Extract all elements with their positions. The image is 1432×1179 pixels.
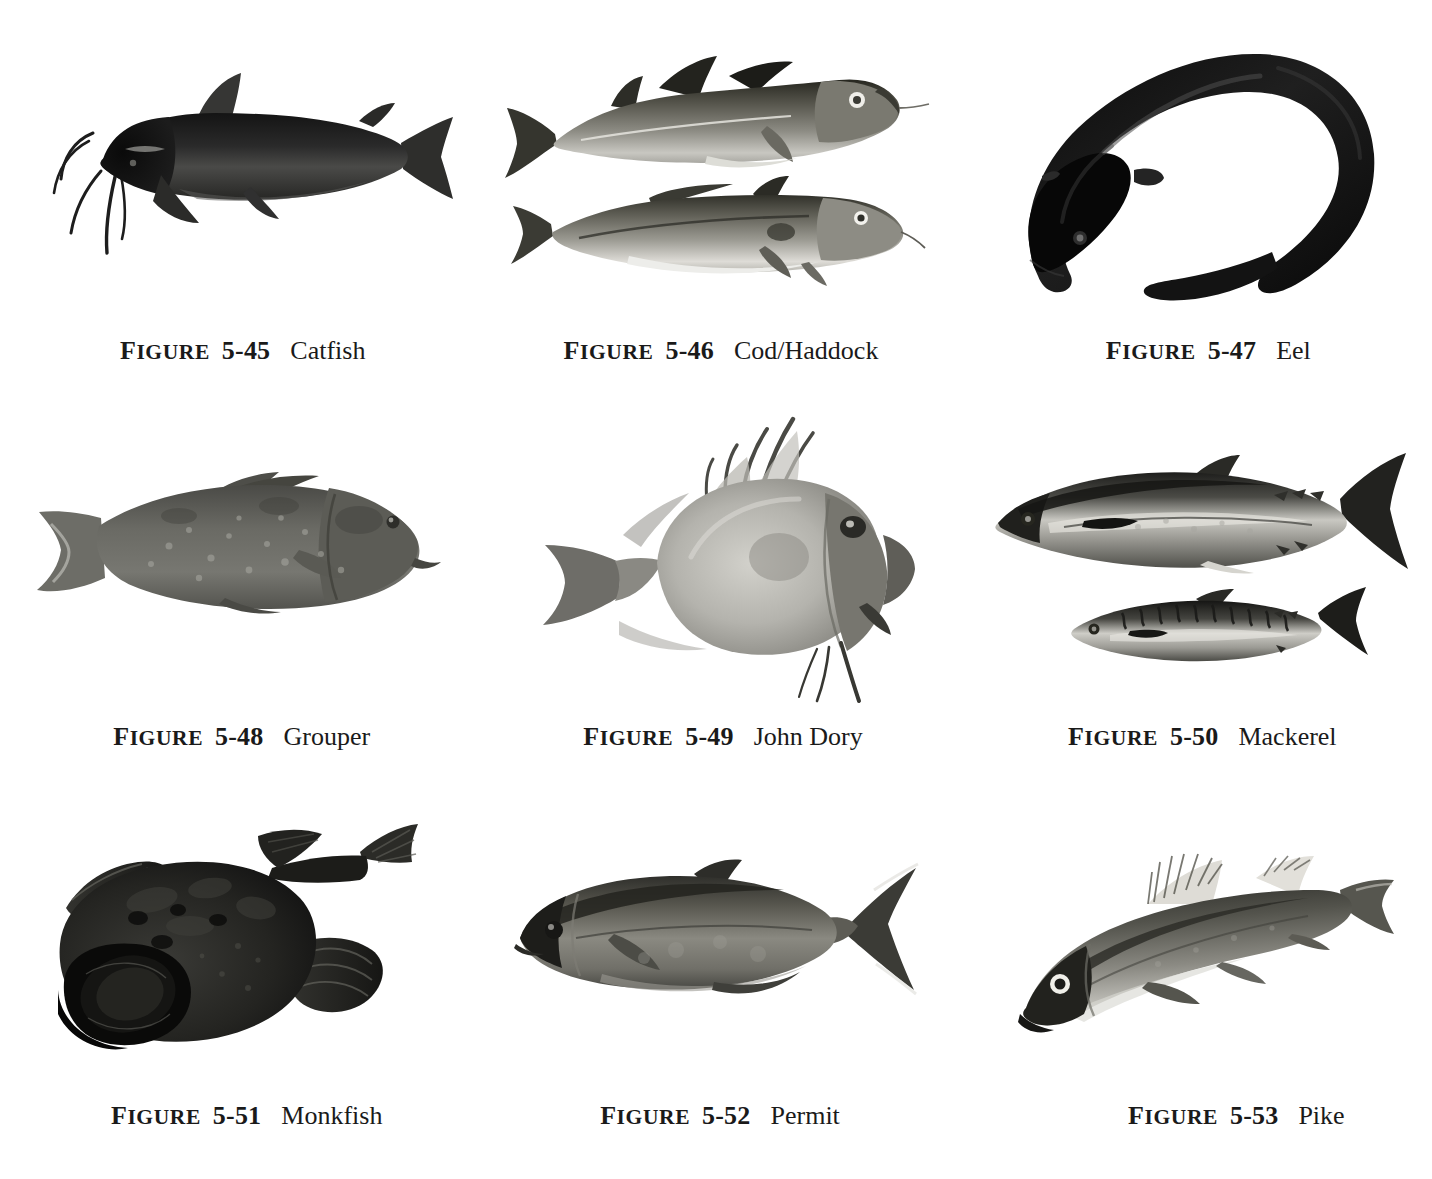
figure-image-catfish [0, 0, 482, 338]
figure-caption-eel: FIGURE 5-47Eel [940, 338, 1432, 364]
figure-image-john-dory [472, 390, 959, 724]
figure-title: Monkfish [261, 1101, 382, 1130]
figure-label: FIGURE [120, 340, 222, 364]
figure-title: Cod/Haddock [714, 336, 878, 365]
figure-number: 5-51 [213, 1101, 261, 1130]
figure-cell-monkfish: FIGURE 5-51Monkfish [0, 775, 477, 1179]
figure-image-monkfish [0, 775, 480, 1103]
figure-title: Catfish [270, 336, 365, 365]
figure-number: 5-49 [685, 722, 733, 751]
figure-label: FIGURE [600, 1105, 702, 1129]
figure-caption-grouper: FIGURE 5-48Grouper [0, 724, 480, 750]
figure-caption-monkfish: FIGURE 5-51Monkfish [0, 1103, 485, 1129]
figure-cell-grouper: FIGURE 5-48Grouper [0, 390, 477, 775]
figure-number: 5-47 [1208, 336, 1256, 365]
figure-cell-john-dory: FIGURE 5-49John Dory [477, 390, 954, 775]
figure-label: FIGURE [1106, 340, 1208, 364]
figure-label: FIGURE [111, 1105, 213, 1129]
figure-image-permit [477, 775, 954, 1103]
figure-cell-eel: FIGURE 5-47Eel [955, 0, 1432, 390]
figure-caption-mackerel: FIGURE 5-50Mackerel [946, 724, 1432, 750]
figure-label: FIGURE [1128, 1105, 1230, 1129]
figure-caption-pike: FIGURE 5-53Pike [912, 1103, 1432, 1129]
figure-label: FIGURE [564, 340, 666, 364]
figure-title: Eel [1256, 336, 1311, 365]
figure-number: 5-46 [666, 336, 714, 365]
figure-caption-john-dory: FIGURE 5-49John Dory [470, 724, 961, 750]
figure-image-pike [940, 775, 1432, 1103]
figure-label: FIGURE [583, 726, 685, 750]
figure-image-grouper [0, 390, 477, 724]
figure-page: FIGURE 5-45Catfish [0, 0, 1432, 1179]
figure-title: Mackerel [1218, 722, 1336, 751]
figure-title: Grouper [264, 722, 371, 751]
figure-image-cod-haddock [477, 0, 954, 338]
figure-image-mackerel [945, 390, 1432, 724]
figure-grid: FIGURE 5-45Catfish [0, 0, 1432, 1179]
figure-number: 5-50 [1170, 722, 1218, 751]
figure-title: Pike [1278, 1101, 1344, 1130]
figure-caption-cod-haddock: FIGURE 5-46Cod/Haddock [472, 338, 959, 364]
figure-caption-catfish: FIGURE 5-45Catfish [0, 338, 481, 364]
figure-caption-permit: FIGURE 5-52Permit [473, 1103, 958, 1129]
figure-cell-pike: FIGURE 5-53Pike [955, 775, 1432, 1179]
figure-cell-mackerel: FIGURE 5-50Mackerel [955, 390, 1432, 775]
figure-image-eel [940, 0, 1432, 338]
figure-cell-permit: FIGURE 5-52Permit [477, 775, 954, 1179]
figure-number: 5-45 [222, 336, 270, 365]
figure-label: FIGURE [1068, 726, 1170, 750]
figure-title: Permit [751, 1101, 840, 1130]
figure-title: John Dory [734, 722, 863, 751]
figure-label: FIGURE [113, 726, 215, 750]
figure-cell-cod-haddock: FIGURE 5-46Cod/Haddock [477, 0, 954, 390]
figure-number: 5-48 [215, 722, 263, 751]
figure-cell-catfish: FIGURE 5-45Catfish [0, 0, 477, 390]
figure-number: 5-52 [702, 1101, 750, 1130]
figure-number: 5-53 [1230, 1101, 1278, 1130]
